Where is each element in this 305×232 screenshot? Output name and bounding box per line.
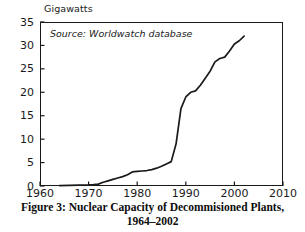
- caption-line-1: Figure 3: Nuclear Capacity of Decommisio…: [21, 201, 284, 213]
- figure-nuclear-decommissioned-capacity: Gigawatts Source: Worldwatch database 35…: [0, 0, 305, 232]
- caption-line-2: 1964–2002: [0, 215, 305, 229]
- data-series-line: [59, 36, 244, 185]
- y-axis-tick-label: 25: [8, 63, 34, 74]
- y-axis-tick-label: 15: [8, 110, 34, 121]
- y-axis-tick-label: 35: [8, 17, 34, 28]
- y-axis-tick-label: 30: [8, 40, 34, 51]
- figure-caption: Figure 3: Nuclear Capacity of Decommisio…: [0, 201, 305, 228]
- x-axis-tick-label: 1960: [26, 188, 54, 199]
- x-axis-tick-label: 1980: [123, 188, 151, 199]
- y-axis-tick-label: 20: [8, 87, 34, 98]
- plot-area: [40, 22, 283, 186]
- x-axis-tick-label: 1970: [75, 188, 103, 199]
- y-axis-title: Gigawatts: [44, 3, 93, 14]
- axis-tick-marks: [40, 22, 283, 186]
- y-axis-tick-label: 10: [8, 134, 34, 145]
- x-axis-tick-label: 1990: [172, 188, 200, 199]
- x-axis-tick-label: 2000: [220, 188, 248, 199]
- y-axis-tick-label: 5: [8, 157, 34, 168]
- x-axis-tick-label: 2010: [269, 188, 297, 199]
- line-chart-svg: [40, 22, 283, 186]
